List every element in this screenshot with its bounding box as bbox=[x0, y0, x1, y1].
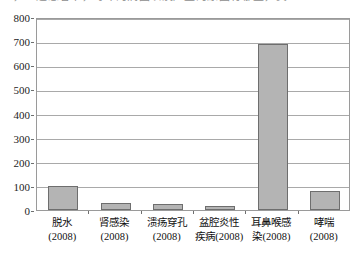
x-category-label-line2: (2008) bbox=[88, 230, 140, 244]
y-tick-mark bbox=[31, 42, 34, 43]
y-tick-mark bbox=[31, 66, 34, 67]
x-category-label: 肾感染(2008) bbox=[88, 216, 140, 244]
y-tick-mark bbox=[31, 211, 34, 212]
y-tick-label: 200 bbox=[14, 157, 31, 168]
y-tick-label: 700 bbox=[14, 37, 31, 48]
bar-chart-figure: 0100200300400500600700800 脱水(2008)肾感染(20… bbox=[0, 11, 362, 258]
bar bbox=[310, 191, 340, 210]
x-tick-mark bbox=[245, 211, 246, 214]
y-tick-mark bbox=[31, 18, 34, 19]
x-axis-labels: 脱水(2008)肾感染(2008)溃疡穿孔(2008)盆腔炎性疾病(2008)耳… bbox=[36, 216, 350, 258]
x-category-label-line1: 盆腔炎性 bbox=[193, 216, 245, 230]
x-axis-ticks bbox=[36, 211, 350, 215]
y-tick-mark bbox=[31, 139, 34, 140]
x-category-label-line2: 疾病(2008) bbox=[193, 230, 245, 244]
x-tick-mark bbox=[88, 211, 89, 214]
y-tick-mark bbox=[31, 187, 34, 188]
x-category-label: 脱水(2008) bbox=[36, 216, 88, 244]
y-tick-mark bbox=[31, 163, 34, 164]
y-tick-label: 300 bbox=[14, 133, 31, 144]
bars-layer bbox=[37, 19, 349, 210]
x-category-label: 盆腔炎性疾病(2008) bbox=[193, 216, 245, 244]
x-category-label-line1: 哮喘 bbox=[298, 216, 350, 230]
x-category-label-line1: 溃疡穿孔 bbox=[141, 216, 193, 230]
clipped-text-content: 一，上述患者中，每年的病因以及产生的原因有哪些，其 bbox=[2, 0, 287, 2]
x-tick-mark bbox=[193, 211, 194, 214]
x-category-label-line2: (2008) bbox=[141, 230, 193, 244]
bar bbox=[258, 44, 288, 210]
y-tick-label: 100 bbox=[14, 181, 31, 192]
x-category-label-line1: 脱水 bbox=[36, 216, 88, 230]
plot-area bbox=[36, 18, 350, 211]
y-tick-mark bbox=[31, 115, 34, 116]
x-category-label: 哮喘(2008) bbox=[298, 216, 350, 244]
bar bbox=[153, 204, 183, 211]
y-tick-label: 0 bbox=[25, 206, 31, 217]
x-category-label-line2: (2008) bbox=[298, 230, 350, 244]
x-category-label-line1: 耳鼻喉感 bbox=[245, 216, 297, 230]
y-tick-label: 400 bbox=[14, 109, 31, 120]
y-tick-label: 600 bbox=[14, 61, 31, 72]
x-category-label: 耳鼻喉感染(2008) bbox=[245, 216, 297, 244]
x-tick-mark bbox=[298, 211, 299, 214]
bar bbox=[48, 186, 78, 210]
y-axis: 0100200300400500600700800 bbox=[0, 11, 34, 218]
bar bbox=[101, 203, 131, 210]
x-category-label-line2: (2008) bbox=[36, 230, 88, 244]
y-tick-label: 800 bbox=[14, 13, 31, 24]
y-tick-label: 500 bbox=[14, 85, 31, 96]
bar bbox=[205, 206, 235, 210]
y-tick-mark bbox=[31, 90, 34, 91]
x-category-label: 溃疡穿孔(2008) bbox=[141, 216, 193, 244]
x-category-label-line1: 肾感染 bbox=[88, 216, 140, 230]
clipped-text-line: 一，上述患者中，每年的病因以及产生的原因有哪些，其 bbox=[0, 0, 362, 11]
x-tick-mark bbox=[141, 211, 142, 214]
x-category-label-line2: 染(2008) bbox=[245, 230, 297, 244]
